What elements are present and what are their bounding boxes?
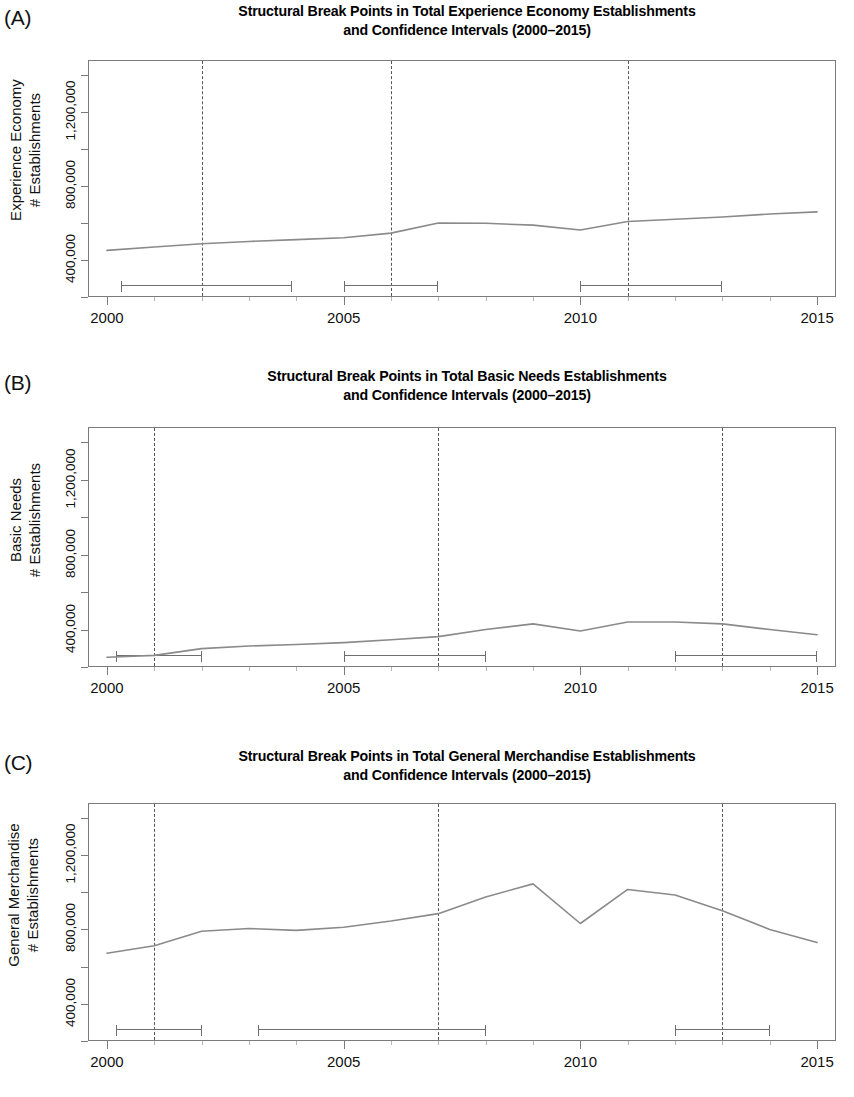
data-series-b	[0, 365, 854, 725]
series-line-a	[107, 212, 817, 251]
data-series-c	[0, 745, 854, 1097]
figure-structural-break-points: (A) Structural Break Points in Total Exp…	[0, 0, 854, 1097]
series-line-b	[107, 622, 817, 657]
data-series-a	[0, 0, 854, 355]
series-line-c	[107, 884, 817, 953]
panel-c: (C) Structural Break Points in Total Gen…	[0, 745, 854, 1097]
panel-a: (A) Structural Break Points in Total Exp…	[0, 0, 854, 355]
panel-b: (B) Structural Break Points in Total Bas…	[0, 365, 854, 725]
